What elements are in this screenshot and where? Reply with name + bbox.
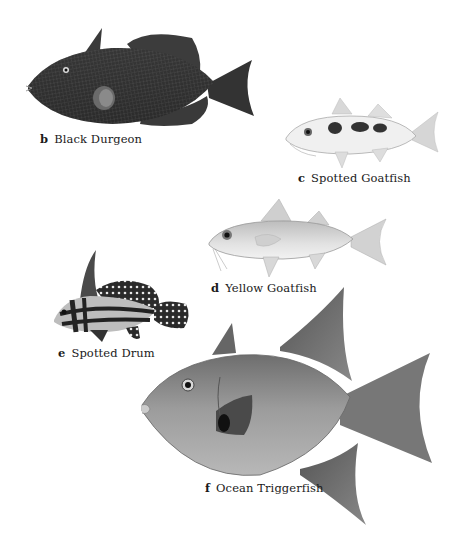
figure-letter: c <box>298 171 305 185</box>
figure-label-c: cSpotted Goatfish <box>298 171 411 185</box>
spotted-goatfish-illustration <box>280 94 440 170</box>
black-durgeon-illustration <box>22 24 257 129</box>
figure-label-b: bBlack Durgeon <box>40 132 142 146</box>
yellow-goatfish-illustration <box>203 195 388 280</box>
figure-letter: b <box>40 132 48 146</box>
species-name: Black Durgeon <box>54 132 142 146</box>
figure-letter: e <box>58 346 65 360</box>
figure-letter: f <box>205 481 210 495</box>
species-name: Spotted Goatfish <box>311 171 411 185</box>
figure-label-f: fOcean Triggerfish <box>205 481 323 495</box>
species-name: Ocean Triggerfish <box>216 481 323 495</box>
